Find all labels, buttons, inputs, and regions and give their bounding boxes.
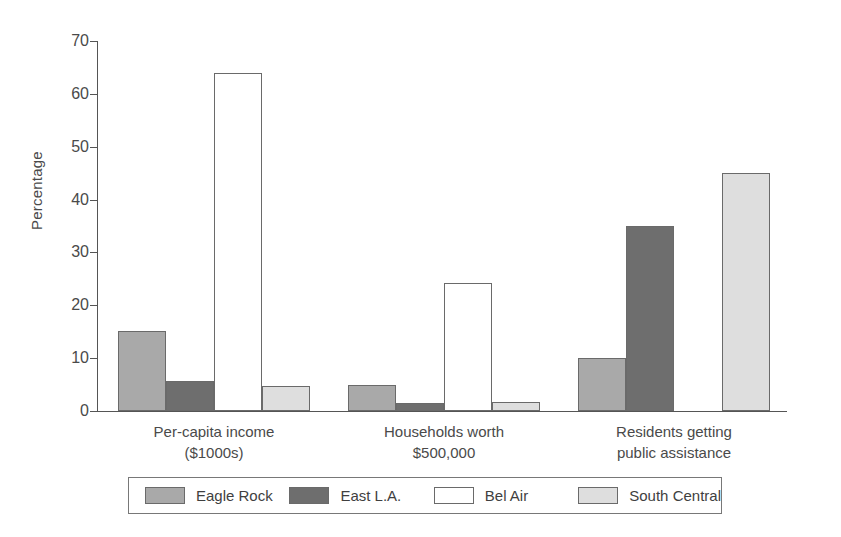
chart-legend: Eagle RockEast L.A.Bel AirSouth Central xyxy=(128,477,722,514)
legend-label-2: East L.A. xyxy=(340,487,401,504)
plot-area xyxy=(97,41,787,411)
y-tick-label-30: 30 xyxy=(49,244,89,260)
legend-item-east-l-a[interactable]: East L.A. xyxy=(273,487,417,504)
y-tick-label-10: 10 xyxy=(49,350,89,366)
y-tick-0 xyxy=(90,411,97,412)
y-tick-40 xyxy=(90,200,97,201)
legend-swatch-2 xyxy=(289,487,329,504)
bar-east-l-a-group-1 xyxy=(166,381,214,411)
bar-south-central-group-1 xyxy=(262,386,310,411)
y-tick-50 xyxy=(90,147,97,148)
bar-eagle-rock-group-2 xyxy=(348,385,396,411)
legend-swatch-3 xyxy=(434,487,474,504)
y-tick-label-50: 50 xyxy=(49,139,89,155)
legend-item-south-central[interactable]: South Central xyxy=(562,487,721,504)
bar-eagle-rock-group-3 xyxy=(578,358,626,411)
legend-swatch-4 xyxy=(578,487,618,504)
y-tick-30 xyxy=(90,252,97,253)
y-tick-label-40: 40 xyxy=(49,192,89,208)
bar-south-central-group-3 xyxy=(722,173,770,411)
legend-swatch-1 xyxy=(145,487,185,504)
y-tick-label-0: 0 xyxy=(49,403,89,419)
y-axis-label: Percentage xyxy=(28,131,45,251)
y-tick-label-70: 70 xyxy=(49,33,89,49)
legend-label-1: Eagle Rock xyxy=(196,487,273,504)
y-tick-label-60: 60 xyxy=(49,86,89,102)
bar-south-central-group-2 xyxy=(492,402,540,411)
y-tick-60 xyxy=(90,94,97,95)
y-tick-label-20: 20 xyxy=(49,297,89,313)
bar-east-l-a-group-2 xyxy=(396,403,444,411)
bar-east-l-a-group-3 xyxy=(626,226,674,411)
legend-item-eagle-rock[interactable]: Eagle Rock xyxy=(129,487,273,504)
legend-label-4: South Central xyxy=(629,487,721,504)
legend-item-bel-air[interactable]: Bel Air xyxy=(418,487,562,504)
x-group-label-1: Per-capita income ($1000s) xyxy=(102,421,326,463)
bar-bel-air-group-2 xyxy=(444,283,492,411)
x-axis-line xyxy=(97,411,787,412)
y-tick-70 xyxy=(90,41,97,42)
x-group-label-2: Households worth $500,000 xyxy=(332,421,556,463)
y-axis-line xyxy=(97,41,98,412)
bar-bel-air-group-1 xyxy=(214,73,262,411)
bar-chart-figure: Percentage 010203040506070 Per-capita in… xyxy=(0,0,841,537)
x-group-label-3: Residents getting public assistance xyxy=(562,421,786,463)
legend-label-3: Bel Air xyxy=(485,487,528,504)
bar-eagle-rock-group-1 xyxy=(118,331,166,411)
y-axis-tick-labels: 010203040506070 xyxy=(43,41,89,412)
y-tick-20 xyxy=(90,305,97,306)
y-tick-10 xyxy=(90,358,97,359)
